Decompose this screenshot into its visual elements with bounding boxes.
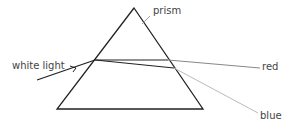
prism-diagram: prism white light red blue: [0, 0, 293, 131]
red-ray-outside: [168, 60, 260, 68]
blue-label: blue: [260, 111, 282, 121]
prism-label: prism: [153, 6, 181, 16]
white-light-label: white light: [12, 61, 65, 71]
blue-ray-inside: [95, 60, 174, 68]
red-label: red: [262, 62, 278, 72]
prism-label-leader: [142, 16, 150, 24]
blue-ray-outside: [174, 68, 258, 113]
prism-triangle: [57, 8, 203, 109]
